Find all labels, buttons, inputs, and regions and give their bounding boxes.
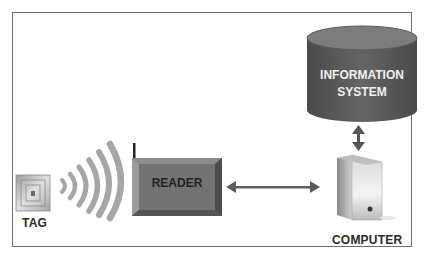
information-system-label-line2: SYSTEM xyxy=(307,85,417,99)
computer-tower-icon xyxy=(337,155,396,220)
radio-waves-icon xyxy=(62,144,121,218)
tag-label: TAG xyxy=(22,216,47,230)
diagram-canvas xyxy=(0,0,424,263)
computer-label: COMPUTER xyxy=(332,233,402,247)
reader-label: READER xyxy=(132,176,222,190)
bidirectional-arrow-vertical-icon xyxy=(352,125,365,151)
information-system-label-line1: INFORMATION xyxy=(307,68,417,82)
bidirectional-arrow-horizontal-icon xyxy=(226,181,320,193)
rfid-tag-icon xyxy=(16,175,50,211)
